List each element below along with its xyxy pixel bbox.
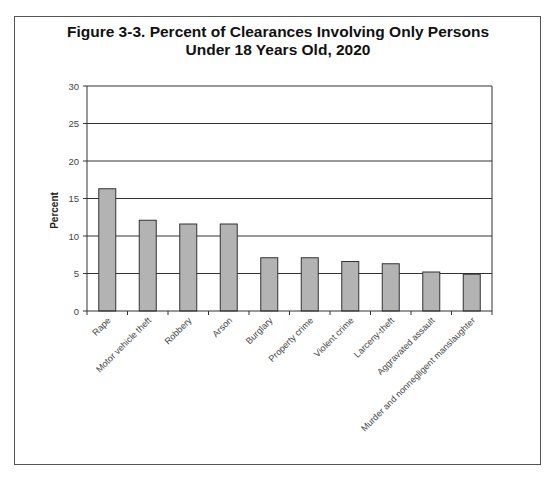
bar: [180, 224, 197, 311]
x-category-label: Burglary: [244, 315, 275, 346]
bar: [261, 258, 278, 311]
x-category-label: Arson: [210, 315, 234, 339]
x-category-label: Robbery: [163, 315, 194, 346]
y-axis-label: Percent: [49, 191, 60, 228]
y-tick-label: 0: [74, 306, 79, 317]
bar: [139, 220, 156, 311]
bar: [301, 258, 318, 311]
bar: [463, 274, 480, 311]
bar: [99, 189, 116, 311]
y-tick-label: 25: [68, 118, 79, 129]
y-tick-label: 5: [74, 268, 79, 279]
bar: [342, 262, 359, 312]
y-tick-label: 20: [68, 156, 79, 167]
x-category-label: Larceny-theft: [352, 315, 397, 360]
bar: [382, 264, 399, 311]
y-tick-label: 15: [68, 193, 79, 204]
y-tick-label: 30: [68, 81, 79, 92]
bar: [220, 224, 237, 311]
x-category-label: Violent crime: [312, 315, 356, 359]
bar-chart: 051015202530RapeMotor vehicle theftRobbe…: [0, 0, 556, 482]
x-category-label: Rape: [90, 315, 112, 337]
bar: [423, 272, 440, 311]
y-tick-label: 10: [68, 231, 79, 242]
